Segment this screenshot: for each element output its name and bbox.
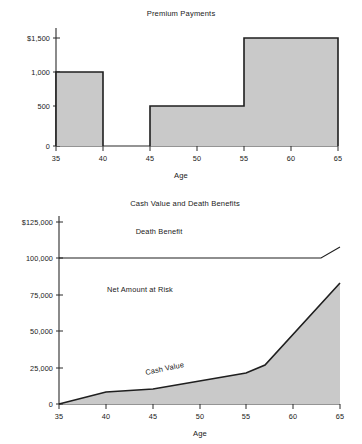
cash-value-title: Cash Value and Death Benefits xyxy=(130,199,240,208)
premium-payments-title: Premium Payments xyxy=(147,9,216,18)
cash-x-ticks xyxy=(59,404,340,409)
cash-value-figure: Cash Value and Death Benefits $125,000 1… xyxy=(0,190,362,444)
premium-payments-figure: Premium Payments $1,500 1,000 500 0 xyxy=(0,0,362,190)
premium-xtick-40: 40 xyxy=(99,154,107,163)
cash-xtick-40: 40 xyxy=(102,412,110,421)
cash-ytick-0: 0 xyxy=(49,400,53,409)
premium-xtick-60: 60 xyxy=(287,154,295,163)
cash-xtick-35: 35 xyxy=(55,412,63,421)
premium-ytick-0: 0 xyxy=(46,142,50,151)
cash-xtick-50: 50 xyxy=(196,412,204,421)
cash-ytick-125000: $125,000 xyxy=(22,218,53,227)
death-benefit-annotation: Death Benefit xyxy=(136,227,183,236)
cash-xtick-65: 65 xyxy=(336,412,344,421)
premium-xtick-35: 35 xyxy=(52,154,60,163)
death-benefit-line xyxy=(59,247,340,258)
premium-ytick-500: 500 xyxy=(38,102,50,111)
cash-value-area-fill xyxy=(59,283,340,404)
premium-ytick-1000: 1,000 xyxy=(31,68,50,77)
premium-ytick-1500: $1,500 xyxy=(27,34,50,43)
cash-ytick-75000: 75,000 xyxy=(30,291,53,300)
cash-value-svg: Cash Value and Death Benefits $125,000 1… xyxy=(0,190,362,444)
premium-x-axis-label: Age xyxy=(174,171,188,180)
premium-bar-35-40-fill xyxy=(56,72,103,146)
cash-xtick-45: 45 xyxy=(149,412,157,421)
net-amount-at-risk-annotation: Net Amount at Risk xyxy=(107,285,173,294)
cash-xtick-60: 60 xyxy=(289,412,297,421)
cash-x-axis-label: Age xyxy=(193,429,207,438)
cash-xtick-55: 55 xyxy=(242,412,250,421)
cash-ytick-100000: 100,000 xyxy=(26,254,53,263)
chart-page: Premium Payments $1,500 1,000 500 0 xyxy=(0,0,362,444)
premium-x-ticks xyxy=(56,146,338,151)
premium-xtick-55: 55 xyxy=(240,154,248,163)
cash-ytick-50000: 50,000 xyxy=(30,327,53,336)
premium-xtick-65: 65 xyxy=(334,154,342,163)
premium-xtick-50: 50 xyxy=(193,154,201,163)
premium-payments-svg: Premium Payments $1,500 1,000 500 0 xyxy=(0,0,362,190)
premium-xtick-45: 45 xyxy=(146,154,154,163)
cash-value-annotation: Cash Value xyxy=(145,360,185,377)
cash-ytick-25000: 25,000 xyxy=(30,364,53,373)
